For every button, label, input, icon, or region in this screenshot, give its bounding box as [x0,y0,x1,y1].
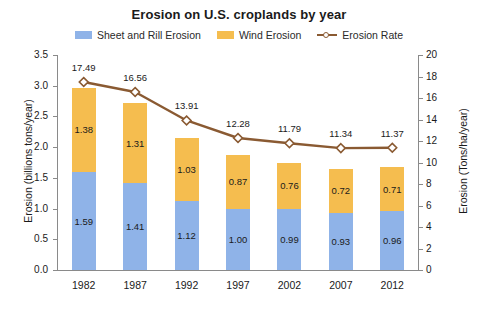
left-axis-tick [53,147,57,148]
right-axis-tick [419,55,423,56]
bar-value-label-sheet-rill: 0.99 [277,235,301,245]
bar-group[interactable]: 0.990.76 [277,55,301,270]
bar-value-label-wind: 0.76 [277,181,301,191]
bar-value-label-sheet-rill: 1.59 [72,217,96,227]
plot-area: 0.00.51.01.52.02.53.03.5 024681012141618… [58,55,418,270]
cropped-caption-artifact [0,303,478,312]
legend-label: Sheet and Rill Erosion [97,29,201,41]
x-axis-label-2012: 2012 [362,279,422,291]
right-axis-tick [419,120,423,121]
page-title: Erosion on U.S. croplands by year [0,7,478,22]
bar-group[interactable]: 1.591.38 [72,55,96,270]
legend-item-1: Sheet and Rill Erosion [75,29,201,41]
bar-group[interactable]: 1.000.87 [226,55,250,270]
chart-legend: Sheet and Rill ErosionWind ErosionErosio… [0,29,478,41]
bar-value-label-wind: 1.38 [72,125,96,135]
legend-item-2: Wind Erosion [217,29,301,41]
bar-value-label-wind: 0.71 [380,185,404,195]
right-axis-tick [419,184,423,185]
bar-value-label-wind: 0.72 [329,186,353,196]
line-value-label: 11.34 [321,129,361,139]
right-axis-tick [419,249,423,250]
right-axis-tick [419,206,423,207]
right-axis-tick [419,270,423,271]
bar-group[interactable]: 1.411.31 [123,55,147,270]
bar-value-label-sheet-rill: 0.93 [329,237,353,247]
bar-value-label-wind: 1.31 [123,139,147,149]
bar-group[interactable]: 0.960.71 [380,55,404,270]
right-axis-tick [419,227,423,228]
left-axis-tick [53,116,57,117]
left-axis-tick [53,86,57,87]
legend-swatch-icon [217,31,234,39]
legend-swatch-icon [75,31,92,39]
bar-group[interactable]: 1.121.03 [175,55,199,270]
right-axis-tick [419,163,423,164]
right-axis-tick [419,98,423,99]
left-axis-tick [53,178,57,179]
line-value-label: 17.49 [64,63,104,73]
line-value-label: 16.56 [115,73,155,83]
line-value-label: 11.37 [372,129,412,139]
legend-label: Wind Erosion [239,29,301,41]
line-value-label: 12.28 [218,119,258,129]
legend-label: Erosion Rate [342,29,403,41]
left-axis-title: Erosion (billions tons/year) [22,31,34,291]
left-axis-tick [53,239,57,240]
left-axis-tick [53,270,57,271]
bar-value-label-wind: 1.03 [175,165,199,175]
line-value-label: 11.79 [269,124,309,134]
x-axis-line [57,270,419,271]
bar-group[interactable]: 0.930.72 [329,55,353,270]
right-axis-title: Erosion (Tons/ha/year) [457,31,469,291]
right-axis-tick [419,141,423,142]
left-axis-line [57,55,58,271]
bar-value-label-sheet-rill: 1.00 [226,235,250,245]
right-axis-tick [419,77,423,78]
line-value-label: 13.91 [167,101,207,111]
bar-value-label-wind: 0.87 [226,177,250,187]
legend-item-3: Erosion Rate [317,29,403,41]
bar-value-label-sheet-rill: 1.41 [123,222,147,232]
left-axis-tick [53,55,57,56]
chart-screenshot: Erosion on U.S. croplands by year Sheet … [0,0,478,312]
left-axis-tick [53,209,57,210]
legend-line-marker-icon [317,31,337,40]
bar-value-label-sheet-rill: 1.12 [175,231,199,241]
bar-value-label-sheet-rill: 0.96 [380,236,404,246]
